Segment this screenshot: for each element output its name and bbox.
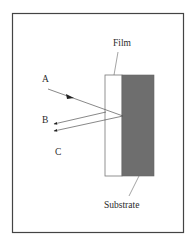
substrate-label: Substrate — [104, 200, 139, 210]
ray-a-label: A — [42, 74, 49, 84]
ray-c-label: C — [55, 147, 61, 157]
thin-film-diagram: Film Substrate A B C — [0, 0, 194, 249]
diagram-frame — [13, 14, 184, 233]
substrate-layer — [122, 75, 154, 176]
ray-b-label: B — [42, 115, 48, 125]
film-label: Film — [113, 38, 132, 48]
film-layer — [105, 75, 122, 176]
